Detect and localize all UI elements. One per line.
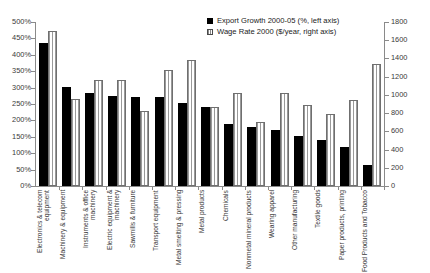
right-axis-tick-label: 200 bbox=[391, 164, 403, 171]
category-tick bbox=[222, 186, 223, 190]
bar-group bbox=[155, 22, 173, 186]
right-axis-tick-mark bbox=[385, 131, 389, 132]
category-label: Metal products bbox=[198, 190, 221, 272]
left-axis-tick-label: 0% bbox=[20, 182, 31, 189]
bar-group bbox=[131, 22, 149, 186]
legend-label: Wage Rate 2000 ($/year, right axis) bbox=[217, 28, 336, 36]
right-axis-tick-mark bbox=[385, 40, 389, 41]
right-axis-tick-label: 1200 bbox=[391, 73, 407, 80]
category-tick bbox=[82, 186, 83, 190]
category-tick bbox=[175, 186, 176, 190]
category-label: Food Products and Tobacco bbox=[361, 190, 384, 272]
category-label: Other manufacturing bbox=[291, 190, 314, 272]
category-tick bbox=[314, 186, 315, 190]
category-tick bbox=[338, 186, 339, 190]
category-label: Instruments & office machinery bbox=[82, 190, 105, 272]
legend-hatched-square-icon bbox=[207, 29, 213, 35]
bar-group bbox=[340, 22, 358, 186]
bar-export-growth bbox=[155, 97, 164, 186]
left-axis-tick-mark bbox=[31, 170, 35, 171]
left-axis-tick-mark bbox=[31, 22, 35, 23]
left-axis-tick-mark bbox=[31, 88, 35, 89]
left-axis-tick-label: 450% bbox=[12, 34, 31, 41]
left-axis-tick-label: 50% bbox=[16, 166, 31, 173]
bar-export-growth bbox=[317, 140, 326, 186]
bar-export-growth bbox=[363, 165, 372, 186]
bar-group bbox=[224, 22, 242, 186]
bar-export-growth bbox=[62, 87, 71, 186]
bar-wage-rate bbox=[71, 99, 80, 186]
left-axis-tick-label: 300% bbox=[12, 84, 31, 91]
left-axis-tick-mark bbox=[31, 186, 35, 187]
left-axis-tick-label: 400% bbox=[12, 51, 31, 58]
left-axis-tick-label: 500% bbox=[12, 18, 31, 25]
bar-export-growth bbox=[201, 107, 210, 186]
left-axis-tick-mark bbox=[31, 104, 35, 105]
left-axis-tick-mark bbox=[31, 153, 35, 154]
category-tick bbox=[129, 186, 130, 190]
legend-item: Export Growth 2000-05 (%, left axis) bbox=[207, 17, 339, 25]
right-axis-line bbox=[384, 22, 385, 187]
bar-wage-rate bbox=[210, 107, 219, 186]
bar-wage-rate bbox=[256, 122, 265, 186]
bar-group bbox=[62, 22, 80, 186]
bar-wage-rate bbox=[303, 105, 312, 186]
left-axis-tick-mark bbox=[31, 137, 35, 138]
right-axis-tick-mark bbox=[385, 22, 389, 23]
right-axis-tick-label: 1400 bbox=[391, 54, 407, 61]
right-axis-tick-mark bbox=[385, 150, 389, 151]
category-tick bbox=[198, 186, 199, 190]
category-tick bbox=[384, 186, 385, 190]
bar-export-growth bbox=[178, 103, 187, 186]
bar-export-growth bbox=[247, 127, 256, 186]
bar-wage-rate bbox=[372, 64, 381, 186]
category-tick bbox=[152, 186, 153, 190]
bar-export-growth bbox=[271, 130, 280, 186]
bar-wage-rate bbox=[94, 80, 103, 186]
left-axis-tick-label: 250% bbox=[12, 100, 31, 107]
right-axis-tick-mark bbox=[385, 58, 389, 59]
right-axis-tick-mark bbox=[385, 95, 389, 96]
bar-export-growth bbox=[85, 93, 94, 186]
bar-group bbox=[85, 22, 103, 186]
right-axis-tick-label: 0 bbox=[391, 182, 395, 189]
category-tick bbox=[268, 186, 269, 190]
category-label: Machinery & equipment bbox=[59, 190, 82, 272]
bar-export-growth bbox=[39, 43, 48, 186]
bar-group bbox=[317, 22, 335, 186]
plot-area bbox=[36, 22, 384, 186]
chart-legend: Export Growth 2000-05 (%, left axis)Wage… bbox=[207, 17, 339, 39]
category-tick bbox=[361, 186, 362, 190]
right-axis-tick-label: 1800 bbox=[391, 18, 407, 25]
bar-group bbox=[271, 22, 289, 186]
bar-group bbox=[201, 22, 219, 186]
right-axis-tick-label: 1000 bbox=[391, 91, 407, 98]
right-axis-tick-label: 400 bbox=[391, 146, 403, 153]
left-axis-tick-label: 100% bbox=[12, 149, 31, 156]
right-axis-tick-label: 1600 bbox=[391, 36, 407, 43]
category-tick bbox=[291, 186, 292, 190]
bar-wage-rate bbox=[48, 31, 57, 186]
bar-chart: 0%50%100%150%200%250%300%350%400%450%500… bbox=[0, 0, 430, 273]
bar-wage-rate bbox=[349, 100, 358, 186]
legend-black-square-icon bbox=[207, 18, 213, 24]
left-axis-tick-label: 350% bbox=[12, 67, 31, 74]
category-label: Electric equipment & machinery bbox=[106, 190, 129, 272]
category-axis-line bbox=[35, 186, 385, 187]
right-axis-tick-mark bbox=[385, 168, 389, 169]
left-axis-tick-label: 200% bbox=[12, 116, 31, 123]
category-tick bbox=[106, 186, 107, 190]
left-axis-tick-mark bbox=[31, 38, 35, 39]
right-axis-tick-label: 800 bbox=[391, 109, 403, 116]
bar-wage-rate bbox=[164, 70, 173, 186]
left-axis-tick-mark bbox=[31, 120, 35, 121]
bar-wage-rate bbox=[280, 93, 289, 186]
category-label: Electronics & telecom equipment bbox=[36, 190, 59, 272]
right-axis-tick-mark bbox=[385, 186, 389, 187]
left-axis-tick-mark bbox=[31, 71, 35, 72]
category-label: Paper products, printing bbox=[338, 190, 361, 272]
category-label: Nonmetal mineral products bbox=[245, 190, 268, 272]
bar-wage-rate bbox=[140, 111, 149, 186]
bar-group bbox=[294, 22, 312, 186]
category-label: Chemicals bbox=[222, 190, 245, 272]
